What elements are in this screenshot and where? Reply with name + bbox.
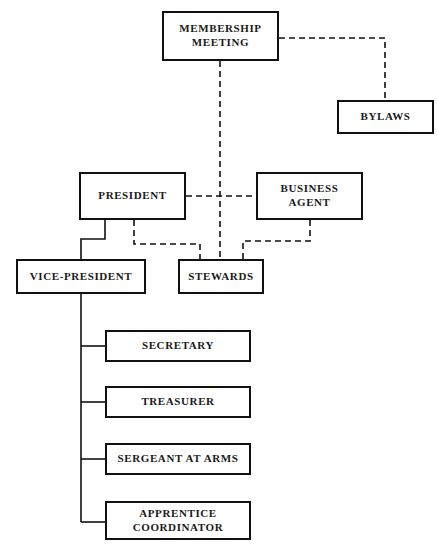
- node-apprentice-coordinator[interactable]: APPRENTICE COORDINATOR: [105, 501, 251, 540]
- node-label-stewards: STEWARDS: [188, 270, 253, 284]
- node-label-bylaws: BYLAWS: [360, 110, 410, 124]
- node-sergeant-at-arms[interactable]: SERGEANT AT ARMS: [105, 443, 251, 475]
- connector-business-agent-to-stewards: [243, 220, 310, 259]
- node-business-agent[interactable]: BUSINESS AGENT: [256, 172, 363, 220]
- node-secretary[interactable]: SECRETARY: [105, 330, 251, 362]
- node-label-treasurer: TREASURER: [141, 395, 214, 409]
- connector-membership-to-bylaws: [279, 38, 385, 100]
- node-label-secretary: SECRETARY: [142, 339, 214, 353]
- node-president[interactable]: PRESIDENT: [79, 172, 186, 220]
- node-label-vice-president: VICE-PRESIDENT: [30, 270, 133, 284]
- node-vice-president[interactable]: VICE-PRESIDENT: [16, 259, 146, 294]
- node-label-membership-meeting: MEMBERSHIP MEETING: [179, 22, 261, 50]
- connector-president-to-stewards: [134, 220, 200, 259]
- node-label-president: PRESIDENT: [98, 189, 166, 203]
- node-treasurer[interactable]: TREASURER: [105, 386, 251, 418]
- node-stewards[interactable]: STEWARDS: [178, 259, 264, 294]
- node-membership-meeting[interactable]: MEMBERSHIP MEETING: [162, 11, 279, 61]
- node-label-sergeant-at-arms: SERGEANT AT ARMS: [118, 452, 239, 466]
- node-bylaws[interactable]: BYLAWS: [337, 100, 434, 134]
- node-label-apprentice-coordinator: APPRENTICE COORDINATOR: [133, 507, 224, 535]
- node-label-business-agent: BUSINESS AGENT: [281, 182, 339, 210]
- connector-president-to-vice-president: [81, 220, 105, 259]
- org-chart-diagram: MEMBERSHIP MEETING BYLAWS PRESIDENT BUSI…: [0, 0, 437, 551]
